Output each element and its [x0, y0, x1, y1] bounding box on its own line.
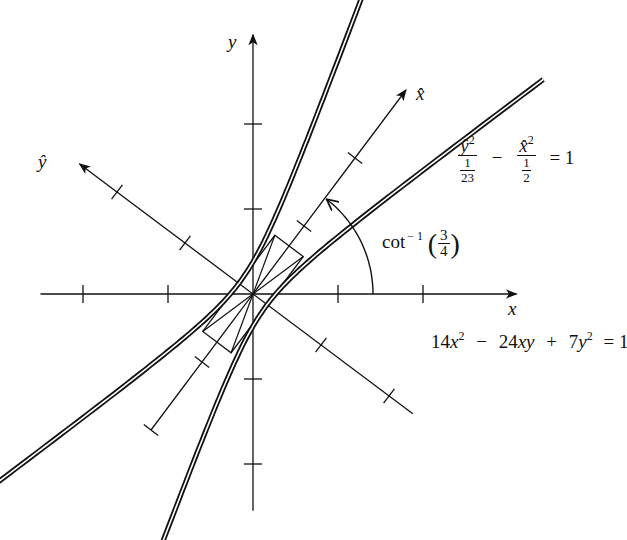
rotation-angle-label: cot− 1 (34): [382, 228, 460, 259]
denominator-numerator: 1: [460, 156, 475, 171]
x-axis-label: x: [508, 299, 516, 318]
x-hat-symbol: x̂: [519, 135, 527, 156]
x-hat-axis-tick: [195, 357, 209, 368]
y-hat-axis-tick: [112, 185, 123, 199]
exponent: 2: [587, 329, 593, 343]
exponent: 2: [528, 133, 534, 147]
left-paren: (: [428, 228, 437, 259]
fraction-denominator: 4: [438, 244, 450, 259]
coefficient: 14: [431, 331, 450, 352]
y-hat-axis-label: ŷ: [38, 152, 46, 171]
y-hat-axis: [80, 164, 413, 414]
diagram-canvas: y x x̂ ŷ ŷ2 123 − x̂2 12 = 1 cot− 1 (34)…: [0, 0, 627, 540]
operator: +: [546, 331, 557, 352]
equals-one: = 1: [603, 331, 627, 352]
operator: −: [476, 331, 487, 352]
axes-group: [41, 35, 517, 511]
x-hat-axis-tick: [348, 153, 362, 164]
y-hat-axis-tick: [180, 236, 191, 250]
denominator-denominator: 23: [460, 171, 475, 185]
exponent: 2: [458, 329, 464, 343]
minus-sign: −: [492, 147, 503, 168]
coefficient: 7: [569, 331, 579, 352]
variable: xy: [518, 331, 535, 352]
exponent: 2: [469, 133, 475, 147]
x-hat-axis-tick: [144, 425, 158, 436]
x-hat-axis-tick: [297, 221, 311, 232]
x-hat-axis-label: x̂: [416, 84, 424, 103]
fraction-numerator: 3: [438, 228, 450, 244]
y-axis-label: y: [228, 32, 236, 51]
y-hat-axis-tick: [384, 389, 395, 403]
hyperbola-plot: [0, 0, 627, 540]
original-equation: 14x2 − 24xy + 7y2 = 1: [431, 330, 627, 351]
denominator-denominator: 2: [522, 171, 531, 185]
angle-fraction: 34: [438, 228, 450, 259]
variable: y: [578, 331, 586, 352]
y-hat-symbol: ŷ: [460, 135, 468, 156]
equals-one: = 1: [549, 147, 574, 168]
coefficient: 24: [499, 331, 518, 352]
y-hat-axis-tick: [316, 338, 327, 352]
denominator-numerator: 1: [522, 156, 531, 171]
rotated-equation: ŷ2 123 − x̂2 12 = 1: [455, 134, 574, 184]
inverse-exponent: − 1: [407, 229, 423, 243]
x-hat-term: x̂2 12: [517, 134, 535, 184]
hyperbola-branch: [0, 0, 378, 509]
right-paren: ): [451, 228, 460, 259]
hyperbola-branch-gap: [0, 0, 378, 509]
cot-function: cot: [382, 231, 405, 252]
y-hat-term: ŷ2 123: [458, 134, 477, 184]
